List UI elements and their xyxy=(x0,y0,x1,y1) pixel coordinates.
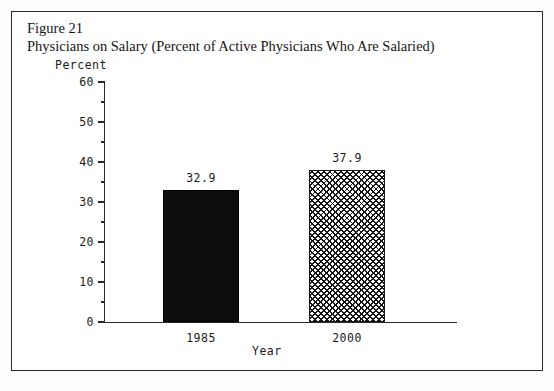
y-tick-label: 40 xyxy=(66,155,94,169)
y-tick-minor xyxy=(101,261,105,262)
x-axis-title: Year xyxy=(252,344,282,358)
y-tick-major xyxy=(98,321,105,322)
y-tick-major xyxy=(98,241,105,242)
y-tick-label: 50 xyxy=(66,115,94,129)
y-tick-label: 30 xyxy=(66,195,94,209)
bar-value-label-2000: 37.9 xyxy=(309,151,385,165)
y-tick-minor xyxy=(101,141,105,142)
y-tick-major xyxy=(98,81,105,82)
x-category-label-2000: 2000 xyxy=(309,331,385,345)
y-tick-major xyxy=(98,161,105,162)
bar-chart-plot-area: Percent Year 0102030405060 32.9198537.92… xyxy=(0,0,532,360)
y-tick-label: 10 xyxy=(66,275,94,289)
bar-value-label-1985: 32.9 xyxy=(163,171,239,185)
y-tick-label: 20 xyxy=(66,235,94,249)
y-tick-minor xyxy=(101,221,105,222)
y-tick-minor xyxy=(101,181,105,182)
y-tick-major xyxy=(98,201,105,202)
y-tick-minor xyxy=(101,101,105,102)
bar-2000[interactable] xyxy=(309,170,385,322)
figure-page: Figure 21 Physicians on Salary (Percent … xyxy=(0,0,554,391)
y-tick-major xyxy=(98,281,105,282)
x-axis-line xyxy=(104,322,457,323)
y-tick-minor xyxy=(101,301,105,302)
y-tick-label: 0 xyxy=(66,315,94,329)
y-axis-title: Percent xyxy=(55,58,107,72)
x-category-label-1985: 1985 xyxy=(163,331,239,345)
bar-1985[interactable] xyxy=(163,190,239,322)
y-tick-major xyxy=(98,121,105,122)
y-tick-label: 60 xyxy=(66,75,94,89)
